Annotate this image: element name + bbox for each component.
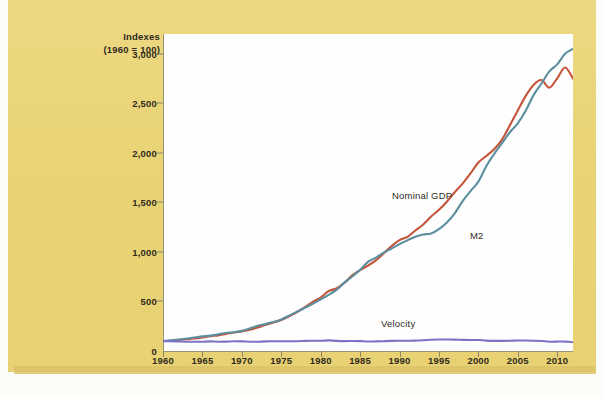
y-tick-label: 500 — [141, 296, 157, 307]
y-tick-label: 1,500 — [132, 197, 157, 208]
series-lines — [163, 34, 573, 351]
page-bottom-margin — [0, 374, 603, 397]
y-tick-label: 2,500 — [132, 98, 157, 109]
series-line-velocity — [163, 339, 573, 342]
y-tick-label: 2,000 — [132, 147, 157, 158]
series-label-nominal-gdp: Nominal GDP — [392, 190, 452, 201]
figure-root: Indexes (1960 = 100) 05001,0001,5002,000… — [0, 0, 603, 397]
y-tick-label: 1,000 — [132, 246, 157, 257]
page-right-margin — [595, 0, 603, 397]
series-line-m2 — [163, 49, 573, 341]
series-label-velocity: Velocity — [381, 318, 415, 329]
series-line-nominal-gdp — [163, 67, 573, 341]
series-label-m2: M2 — [470, 230, 484, 241]
y-tick-label: 3,000 — [132, 48, 157, 59]
y-axis-title-line1: Indexes — [103, 30, 160, 43]
x-axis-line — [163, 351, 573, 352]
